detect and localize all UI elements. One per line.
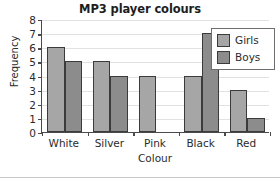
bar [139, 76, 157, 133]
x-tick-mark [224, 132, 225, 136]
legend-item-girls: Girls [215, 32, 271, 49]
x-tick-mark [179, 132, 180, 136]
legend-swatch-girls [217, 34, 230, 47]
bar [230, 90, 248, 132]
bar [47, 47, 65, 132]
legend-swatch-boys [217, 51, 230, 64]
x-category-label: White [49, 137, 80, 149]
x-tick-mark [133, 132, 134, 136]
x-category-label: Black [186, 137, 214, 149]
bar [93, 61, 111, 132]
y-tick-label: 2 [0, 99, 36, 111]
bar [65, 61, 83, 132]
x-category-label: Red [236, 137, 256, 149]
y-tick-label: 6 [0, 42, 36, 54]
y-tick-label: 5 [0, 56, 36, 68]
bar [110, 76, 128, 133]
bar [184, 76, 202, 133]
y-tick-label: 1 [0, 113, 36, 125]
chart-title: MP3 player colours [0, 2, 280, 16]
legend-label-boys: Boys [235, 52, 260, 63]
legend-label-girls: Girls [235, 35, 259, 46]
x-tick-mark [42, 132, 43, 136]
y-tick-label: 0 [0, 127, 36, 139]
bar [247, 118, 265, 132]
x-tick-mark [270, 132, 271, 136]
y-tick-label: 3 [0, 85, 36, 97]
x-category-label: Silver [95, 137, 125, 149]
x-axis-label: Colour [41, 152, 269, 164]
y-tick-label: 8 [0, 14, 36, 26]
legend-item-boys: Boys [215, 49, 271, 66]
x-tick-mark [88, 132, 89, 136]
bar-chart: MP3 player colours Frequency 012345678 W… [0, 0, 280, 178]
y-tick-label: 7 [0, 28, 36, 40]
y-tick-label: 4 [0, 71, 36, 83]
x-category-label: Pink [144, 137, 166, 149]
legend: Girls Boys [211, 28, 275, 70]
